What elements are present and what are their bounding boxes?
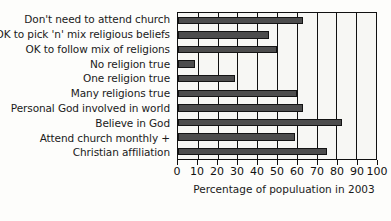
bar-row — [178, 86, 376, 101]
x-tick-label: 20 — [210, 165, 224, 179]
category-axis-labels: Don't need to attend churchOK to pick 'n… — [0, 12, 174, 160]
bar — [178, 119, 342, 127]
bar — [178, 75, 235, 83]
bar-row — [178, 71, 376, 86]
x-tick-label: 0 — [174, 165, 181, 179]
category-label: OK to follow mix of religions — [0, 42, 174, 57]
bar-row — [178, 144, 376, 159]
x-tick-label: 40 — [250, 165, 264, 179]
bar — [178, 46, 277, 54]
bar-series — [178, 13, 376, 159]
x-axis-title: Percentage of populuation in 2003 — [177, 183, 391, 195]
bar-row — [178, 28, 376, 43]
bar — [178, 133, 295, 141]
x-tick-label: 80 — [330, 165, 344, 179]
bar-chart: Don't need to attend churchOK to pick 'n… — [0, 0, 391, 221]
bar-row — [178, 57, 376, 72]
category-label: Attend church monthly + — [0, 130, 174, 145]
category-label: Christian affiliation — [0, 145, 174, 160]
x-tick-label: 60 — [290, 165, 304, 179]
x-axis-tick-labels: 0102030405060708090100 — [177, 165, 377, 179]
x-tick-label: 50 — [270, 165, 284, 179]
x-tick-label: 10 — [190, 165, 204, 179]
bar — [178, 104, 303, 112]
category-label: No religion true — [0, 56, 174, 71]
bar-row — [178, 13, 376, 28]
category-label: One religion true — [0, 71, 174, 86]
x-tick-label: 90 — [350, 165, 364, 179]
bar — [178, 17, 303, 25]
bar — [178, 148, 327, 156]
category-label: Don't need to attend church — [0, 12, 174, 27]
plot-area — [177, 12, 377, 160]
bar-row — [178, 115, 376, 130]
category-label: Personal God involved in world — [0, 101, 174, 116]
bar — [178, 31, 269, 39]
bar-row — [178, 130, 376, 145]
category-label: Believe in God — [0, 116, 174, 131]
x-tick-label: 70 — [310, 165, 324, 179]
category-label: Many religions true — [0, 86, 174, 101]
bar — [178, 60, 195, 68]
category-label: OK to pick 'n' mix religious beliefs — [0, 27, 174, 42]
x-tick-label: 100 — [367, 165, 388, 179]
bar — [178, 90, 297, 98]
x-tick-label: 30 — [230, 165, 244, 179]
bar-row — [178, 42, 376, 57]
bar-row — [178, 101, 376, 116]
